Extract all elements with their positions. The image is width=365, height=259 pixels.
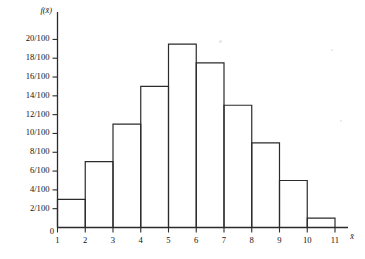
histogram-bar [169, 44, 197, 227]
y-axis-tick-label: 8/100 [30, 146, 50, 156]
scan-speck [340, 120, 342, 122]
histogram-bar [113, 124, 141, 227]
histogram-bar [252, 143, 280, 228]
x-axis-tick-label: 11 [331, 235, 339, 245]
histogram-bar [58, 199, 86, 227]
origin-label: 0 [50, 226, 54, 236]
y-axis-tick-label: 4/100 [30, 184, 50, 194]
y-axis-tick-label: 16/100 [26, 71, 50, 81]
x-axis-label-group: 1234567891011 [55, 235, 339, 245]
histogram-bar-group [58, 44, 336, 227]
y-axis-tick-label: 10/100 [26, 127, 50, 137]
y-axis-tick-label: 20/100 [26, 33, 50, 43]
x-axis-tick-label: 6 [194, 235, 199, 245]
histogram-bar [307, 218, 335, 227]
histogram-bar [224, 105, 252, 227]
x-axis-tick-label: 9 [277, 235, 281, 245]
y-axis-tick-label: 6/100 [30, 165, 50, 175]
y-axis-label-group: 2/1004/1006/1008/10010/10012/10014/10016… [26, 33, 50, 212]
y-axis-tick-label: 12/100 [26, 109, 50, 119]
y-axis-title: f(x̄) [40, 6, 52, 15]
scan-speck [219, 40, 222, 43]
x-axis-tick-label: 8 [250, 235, 254, 245]
x-axis-tick-label: 1 [55, 235, 59, 245]
scan-speck [331, 49, 333, 51]
y-axis-tick-label: 18/100 [26, 52, 50, 62]
histogram-chart: 2/1004/1006/1008/10010/10012/10014/10016… [0, 0, 365, 259]
y-axis-tick-group [53, 39, 58, 208]
x-axis-tick-label: 10 [303, 235, 312, 245]
x-axis-tick-label: 2 [83, 235, 87, 245]
histogram-bar [85, 162, 113, 228]
x-axis-tick-group [58, 228, 336, 233]
histogram-bar [141, 86, 169, 227]
x-axis-title: x̄ [349, 232, 354, 241]
x-axis-tick-label: 4 [139, 235, 144, 245]
histogram-bar [280, 180, 308, 227]
histogram-svg: 2/1004/1006/1008/10010/10012/10014/10016… [0, 0, 365, 259]
x-axis-tick-label: 3 [111, 235, 115, 245]
y-axis-tick-label: 14/100 [26, 90, 50, 100]
x-axis-tick-label: 5 [166, 235, 170, 245]
x-axis-tick-label: 7 [222, 235, 227, 245]
y-axis-tick-label: 2/100 [30, 203, 50, 213]
histogram-bar [196, 63, 224, 228]
